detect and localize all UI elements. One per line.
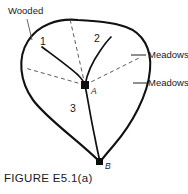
node-label-a: A [90, 86, 97, 96]
figure-caption: FIGURE E5.1(a) [4, 172, 93, 184]
wooded-leader-line [27, 19, 32, 40]
annotation-label-meadows-lower: Meadows [148, 77, 188, 88]
region-label-2: 2 [94, 32, 100, 44]
node-a-marker [81, 81, 89, 89]
node-label-b: B [105, 161, 111, 171]
figure-drawing: 1 2 3 A B Wooded Meadows Meadows [0, 0, 188, 194]
dashed-line-left [25, 68, 85, 85]
node-b-marker [96, 158, 103, 165]
divider-curve-2a [85, 37, 111, 85]
region-label-1: 1 [40, 35, 46, 47]
annotation-label-meadows-upper: Meadows [148, 49, 188, 60]
annotation-label-wooded: Wooded [8, 5, 43, 16]
figure-container: 1 2 3 A B Wooded Meadows Meadows FIGURE … [0, 0, 188, 194]
region-label-3: 3 [70, 102, 76, 114]
